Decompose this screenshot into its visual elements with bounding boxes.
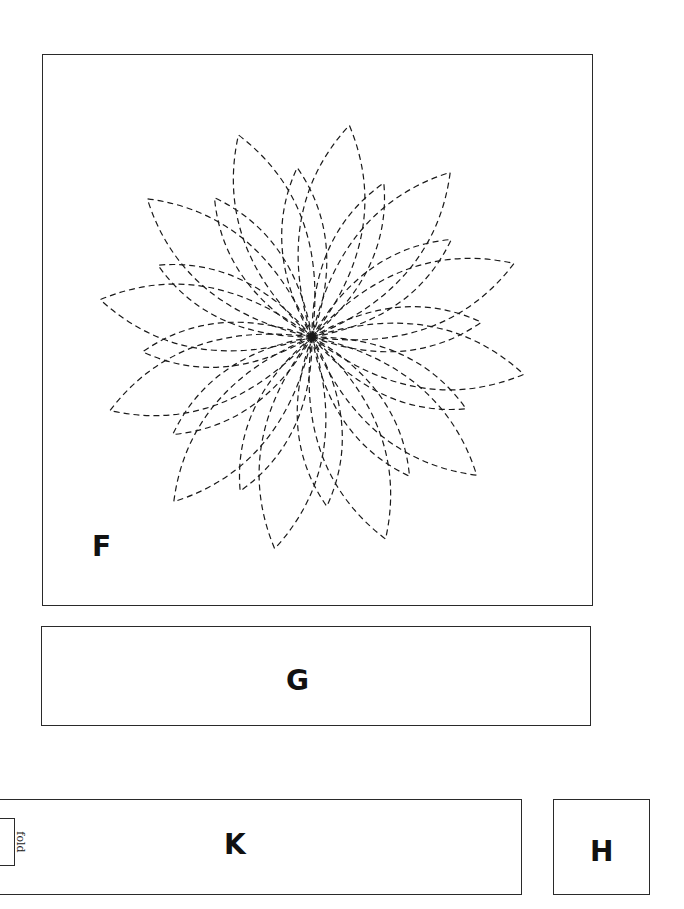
petal-outline <box>312 323 524 390</box>
panel-g: G <box>41 626 591 726</box>
petal-outline <box>312 258 514 340</box>
panel-h: H <box>553 799 650 895</box>
flower-pattern-icon <box>0 0 684 909</box>
petal-outline <box>312 172 450 337</box>
panel-g-label: G <box>286 667 309 695</box>
petal-outline <box>158 264 312 337</box>
petal-outline <box>312 239 451 337</box>
petal-outline <box>312 337 466 410</box>
petal-outline <box>298 125 365 337</box>
petal-outline <box>239 337 312 491</box>
petal-outline <box>173 337 312 435</box>
panel-k-label: K <box>224 831 246 859</box>
petal-outline <box>110 334 312 416</box>
petal-outline <box>233 135 315 337</box>
fold-label: fold <box>14 831 27 852</box>
petal-outline <box>174 337 312 502</box>
petal-outline <box>312 183 385 337</box>
petal-outline <box>309 337 391 539</box>
petal-outline <box>100 284 312 351</box>
petal-outline <box>259 337 326 549</box>
panel-f-label: F <box>92 533 111 561</box>
petal-outline <box>147 199 312 337</box>
petal-outline <box>214 198 312 337</box>
panel-h-label: H <box>590 838 613 866</box>
petal-outline <box>312 337 410 476</box>
panel-k: K <box>0 799 522 895</box>
petal-outline <box>312 337 477 475</box>
